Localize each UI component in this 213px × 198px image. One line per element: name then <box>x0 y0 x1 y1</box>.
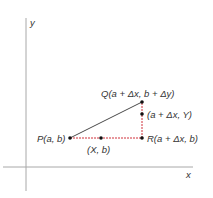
label-p: P(a, b) <box>37 133 66 144</box>
x-axis-label: x <box>185 169 192 180</box>
mean-value-diagram: y x Q(a + Δx, b + Δy) (a + Δx, Y) P(a, b… <box>0 0 213 198</box>
point-r <box>140 136 144 140</box>
point-q <box>140 100 144 104</box>
label-x-b: (X, b) <box>87 144 110 155</box>
y-axis-label: y <box>29 17 36 28</box>
label-r: R(a + Δx, b) <box>147 133 198 144</box>
segment-pq <box>70 102 142 138</box>
point-x-b <box>99 136 103 140</box>
label-a-y: (a + Δx, Y) <box>147 109 192 120</box>
point-p <box>68 136 72 140</box>
label-q: Q(a + Δx, b + Δy) <box>101 88 174 99</box>
point-a-y <box>140 112 144 116</box>
